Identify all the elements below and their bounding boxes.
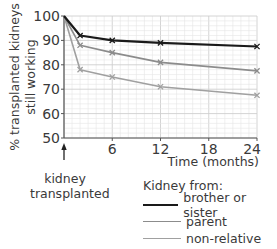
x-tick-label: 6 — [108, 141, 117, 157]
annotation-line1: kidney — [30, 171, 100, 186]
y-tick-label: 60 — [42, 106, 60, 122]
kidney-survival-chart: 50607080901006121824 % transplanted kidn… — [0, 0, 277, 170]
legend-label: parent — [186, 214, 227, 229]
y-tick-label: 50 — [42, 130, 60, 146]
legend-swatch — [143, 238, 181, 239]
up-arrow-icon — [61, 143, 66, 160]
annotation-line2: transplanted — [30, 186, 100, 201]
legend-item-non-relative: non-relative — [143, 230, 277, 247]
transplant-annotation: kidney transplanted — [30, 171, 100, 201]
legend: Kidney from: brother or sister parent no… — [143, 178, 277, 247]
axes — [61, 16, 257, 141]
legend-swatch — [143, 221, 181, 222]
y-tick-label: 90 — [42, 32, 60, 48]
y-tick-label: 100 — [33, 8, 60, 24]
series-non-relative — [64, 16, 260, 98]
y-tick-label: 80 — [42, 57, 60, 73]
y-axis-label-line2: still working — [23, 39, 38, 114]
data-series — [64, 16, 260, 98]
x-axis-label: Time (months) — [167, 154, 259, 169]
grid — [64, 16, 257, 138]
legend-swatch — [143, 204, 178, 206]
y-tick-label: 70 — [42, 81, 60, 97]
y-axis-label: % transplanted kidneys — [7, 3, 22, 151]
legend-item-brother-or-sister: brother or sister — [143, 196, 277, 213]
legend-label: non-relative — [186, 231, 261, 246]
